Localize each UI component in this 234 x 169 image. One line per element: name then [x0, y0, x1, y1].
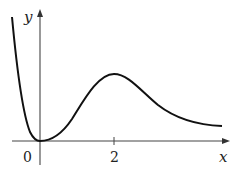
y-axis-arrow-icon	[37, 9, 43, 17]
y-axis-label: y	[23, 8, 33, 26]
tick-label-2: 2	[110, 149, 119, 165]
curve	[12, 17, 222, 141]
x-axis-arrow-icon	[222, 138, 230, 144]
x-axis-label: x	[219, 148, 228, 166]
function-graph: y x 0 2	[0, 0, 234, 169]
origin-label: 0	[23, 149, 32, 165]
